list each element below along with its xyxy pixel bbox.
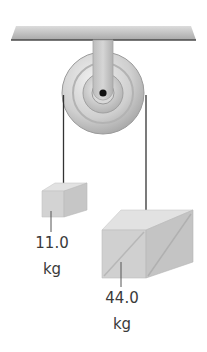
pulley-bracket — [93, 40, 113, 100]
large-mass-unit: kg — [100, 317, 144, 332]
small-crate — [42, 183, 87, 232]
axle — [99, 89, 106, 96]
small-mass-unit: kg — [31, 262, 73, 277]
small-mass-value: 11.0 — [31, 236, 73, 251]
ceiling-support — [11, 26, 196, 40]
large-crate — [102, 210, 193, 287]
large-mass-value: 44.0 — [100, 291, 144, 306]
